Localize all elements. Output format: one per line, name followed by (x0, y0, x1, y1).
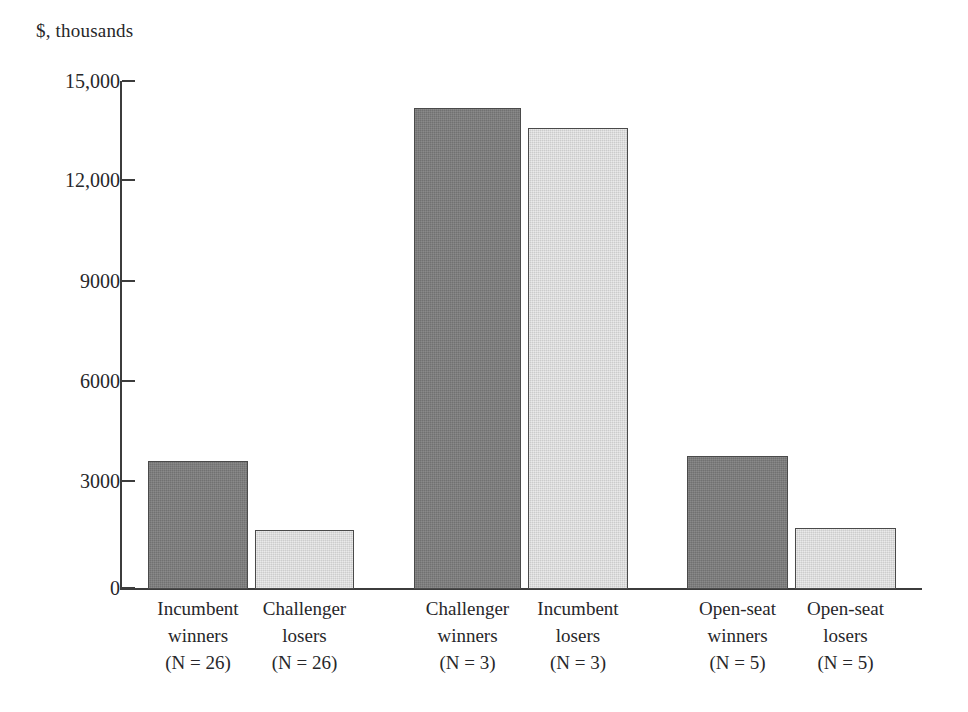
y-tick-label: 15,000 (12, 70, 120, 93)
y-tick-mark (122, 380, 135, 382)
bar (255, 530, 354, 589)
y-tick-mark (122, 179, 135, 181)
bar (795, 528, 896, 589)
y-tick-mark (122, 280, 135, 282)
y-tick-label: 6000 (12, 370, 120, 393)
y-tick-mark (122, 80, 135, 82)
bar (528, 128, 628, 589)
chart-page: $, thousands 15,00012,0009000600030000 I… (0, 0, 968, 712)
y-tick-label: 9000 (12, 270, 120, 293)
bar (148, 461, 248, 589)
bar (414, 108, 521, 589)
bar (687, 456, 788, 589)
y-tick-label: 3000 (12, 470, 120, 493)
category-label: Challenger losers (N = 26) (215, 596, 395, 677)
category-label: Open-seat losers (N = 5) (756, 596, 936, 677)
y-tick-label: 0 (12, 577, 120, 600)
bar-chart-plot-area: 15,00012,0009000600030000 Incumbent winn… (0, 0, 968, 712)
y-tick-mark (122, 587, 135, 589)
category-label: Incumbent losers (N = 3) (488, 596, 668, 677)
y-tick-label: 12,000 (12, 169, 120, 192)
y-tick-mark (122, 480, 135, 482)
y-axis-line (120, 81, 122, 590)
